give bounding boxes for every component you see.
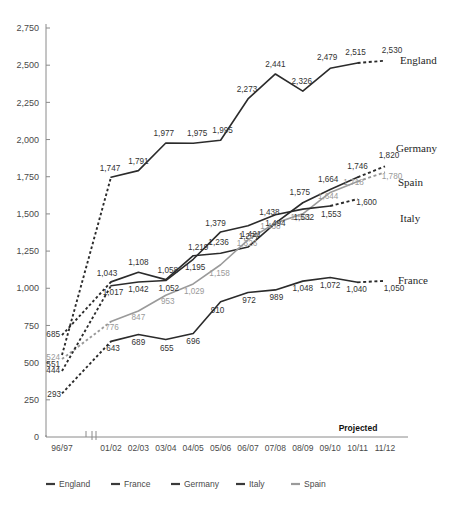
x-axis-tick-label: 03/04 xyxy=(155,443,177,453)
data-point-label: 953 xyxy=(161,297,175,306)
data-point-label: 2,326 xyxy=(292,77,313,86)
y-axis-tick-label: 2,750 xyxy=(16,23,39,33)
data-point-label: 2,515 xyxy=(345,48,366,57)
x-axis-tick-label: 05/06 xyxy=(210,443,232,453)
x-axis-tick-label: 07/08 xyxy=(265,443,287,453)
data-point-label: 1,575 xyxy=(290,188,311,197)
data-point-label: 972 xyxy=(242,296,256,305)
data-point-label: 689 xyxy=(132,338,146,347)
data-point-label: 1,236 xyxy=(208,238,229,247)
series-group-england: 5511,7471,7911,9771,9751,9952,2732,4412,… xyxy=(46,46,437,369)
data-point-label: 1,326 xyxy=(237,239,258,248)
series-end-label-england: England xyxy=(400,54,437,66)
line-chart: 02505007501,0001,2501,5001,7502,0002,250… xyxy=(0,0,462,511)
x-axis-tick-label: 11/12 xyxy=(375,443,396,453)
data-point-label: 2,479 xyxy=(317,53,338,62)
data-point-label: 444 xyxy=(46,366,60,375)
data-point-label: 776 xyxy=(105,323,119,332)
y-axis-tick-label: 1,000 xyxy=(16,283,39,293)
y-axis-tick-label: 1,750 xyxy=(16,172,39,182)
data-point-label: 1,043 xyxy=(97,269,118,278)
x-axis-tick-label: 04/05 xyxy=(183,443,205,453)
data-point-label: 1,532 xyxy=(294,213,315,222)
x-axis-tick-label: 02/03 xyxy=(128,443,150,453)
y-axis-tick-label: 500 xyxy=(24,358,39,368)
y-axis-tick-label: 1,500 xyxy=(16,209,39,219)
data-point-label: 910 xyxy=(211,306,225,315)
y-axis-tick-label: 750 xyxy=(24,321,39,331)
data-point-label: 1,017 xyxy=(103,288,124,297)
x-axis-tick-label: 06/07 xyxy=(237,443,259,453)
data-point-label: 1,158 xyxy=(209,269,230,278)
legend-item-italy[interactable]: Italy xyxy=(249,479,265,489)
data-point-label: 1,052 xyxy=(159,284,180,293)
series-projected-line xyxy=(358,281,385,282)
legend-item-england[interactable]: England xyxy=(59,479,90,489)
series-end-label-france: France xyxy=(398,274,428,286)
data-point-label: 1,995 xyxy=(212,126,233,135)
data-point-label: 1,718 xyxy=(343,178,364,187)
data-point-label: 524 xyxy=(46,353,60,362)
x-axis-tick-label: 01/02 xyxy=(100,443,122,453)
series-projected-line xyxy=(358,61,385,63)
y-axis-tick-label: 2,000 xyxy=(16,135,39,145)
data-point-label: 1,747 xyxy=(100,164,121,173)
data-point-label: 2,273 xyxy=(237,85,258,94)
series-line xyxy=(111,181,358,321)
series-historic-gap-segment xyxy=(62,341,111,393)
data-point-label: 1,746 xyxy=(347,162,368,171)
legend-item-germany[interactable]: Germany xyxy=(184,479,220,489)
series-end-label-spain: Spain xyxy=(398,176,424,188)
data-point-label: 1,600 xyxy=(356,198,377,207)
data-point-label: 293 xyxy=(47,390,61,399)
data-point-label: 643 xyxy=(106,344,120,353)
data-point-label: 1,042 xyxy=(128,285,149,294)
data-point-label: 1,977 xyxy=(154,129,175,138)
data-point-label: 1,791 xyxy=(128,157,149,166)
legend: EnglandFranceGermanyItalySpain xyxy=(46,479,326,489)
data-point-label: 1,048 xyxy=(293,284,314,293)
projected-note: Projected xyxy=(339,423,378,433)
data-point-label: 685 xyxy=(46,330,60,339)
data-point-label: 1,195 xyxy=(185,263,206,272)
x-axis-tick-label: 10/11 xyxy=(347,443,368,453)
data-point-label: 1,029 xyxy=(184,287,205,296)
y-axis-tick-label: 2,250 xyxy=(16,98,39,108)
data-point-label: 847 xyxy=(132,313,146,322)
data-point-label: 1,975 xyxy=(187,129,208,138)
data-point-label: 696 xyxy=(186,337,200,346)
data-point-label: 1,438 xyxy=(259,208,280,217)
data-point-label: 1,553 xyxy=(321,210,342,219)
series-end-label-italy: Italy xyxy=(400,212,421,224)
data-point-label: 655 xyxy=(160,344,174,353)
y-axis-tick-label: 2,500 xyxy=(16,60,39,70)
data-point-label: 1,494 xyxy=(265,219,286,228)
legend-item-france[interactable]: France xyxy=(124,479,151,489)
chart-canvas: 02505007501,0001,2501,5001,7502,0002,250… xyxy=(0,0,462,511)
y-axis-tick-label: 0 xyxy=(34,432,39,442)
data-point-label: 1,379 xyxy=(205,219,226,228)
legend-item-spain[interactable]: Spain xyxy=(304,479,326,489)
x-axis-tick-label: 08/09 xyxy=(292,443,314,453)
data-point-label: 1,040 xyxy=(346,285,367,294)
data-point-label: 2,441 xyxy=(265,60,286,69)
data-point-label: 989 xyxy=(270,293,284,302)
x-axis-tick-label: 09/10 xyxy=(320,443,342,453)
y-axis-tick-label: 1,250 xyxy=(16,246,39,256)
data-point-label: 1,072 xyxy=(320,281,341,290)
data-point-label: 1,664 xyxy=(318,175,339,184)
data-point-label: 1,644 xyxy=(318,192,339,201)
x-axis-tick-label: 96/97 xyxy=(51,443,73,453)
y-axis-tick-label: 250 xyxy=(24,395,39,405)
data-point-label: 1,108 xyxy=(128,258,149,267)
data-point-label: 1,421 xyxy=(241,230,262,239)
series-end-label-germany: Germany xyxy=(396,142,437,154)
